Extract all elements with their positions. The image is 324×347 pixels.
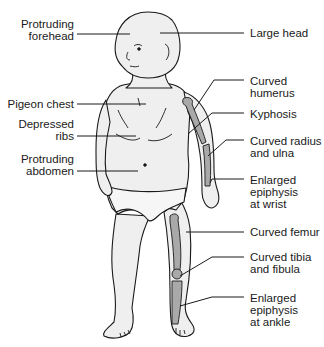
label-enlarged-epiphysis-ankle: Enlarged epiphysis at ankle [250, 292, 298, 328]
label-pigeon-chest: Pigeon chest [8, 98, 75, 110]
left-leg [104, 214, 150, 338]
label-protruding-abdomen: Protruding abdomen [21, 153, 74, 177]
head [115, 12, 180, 78]
child-body [96, 12, 219, 338]
leader-enlarged-epiphysis-ankle [180, 297, 244, 306]
label-large-head: Large head [250, 27, 308, 39]
label-protruding-forehead: Protruding forehead [21, 18, 74, 42]
label-depressed-ribs: Depressed ribs [18, 118, 74, 142]
label-curved-radius-ulna: Curved radius and ulna [250, 135, 322, 159]
label-curved-femur: Curved femur [250, 226, 320, 238]
label-curved-humerus: Curved humerus [250, 75, 295, 99]
label-kyphosis: Kyphosis [250, 108, 297, 120]
knee-joint [172, 269, 182, 279]
label-curved-tibia-fibula: Curved tibia and fibula [250, 251, 311, 275]
label-enlarged-epiphysis-wrist: Enlarged epiphysis at wrist [250, 174, 298, 210]
